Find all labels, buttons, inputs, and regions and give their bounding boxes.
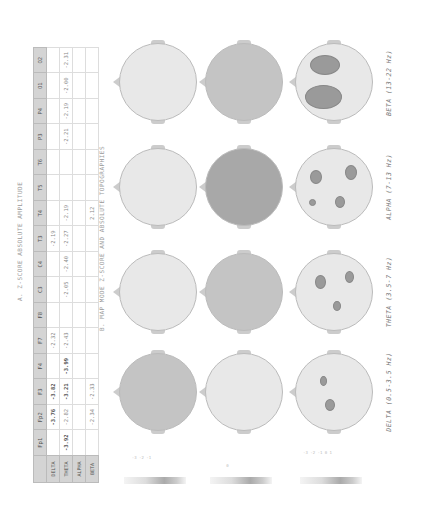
table-cell bbox=[86, 99, 99, 125]
activation-region bbox=[333, 301, 341, 311]
activation-region bbox=[335, 196, 345, 208]
table-cell bbox=[86, 150, 99, 176]
table-cell bbox=[60, 175, 73, 201]
table-cell: -2.34 bbox=[86, 405, 99, 431]
scalp-disc bbox=[119, 148, 197, 226]
alpha-z-score-map bbox=[119, 148, 197, 226]
col-header: Fp2 bbox=[34, 405, 47, 431]
col-header: T3 bbox=[34, 226, 47, 252]
table-cell bbox=[73, 226, 86, 252]
row-label: ALPHA bbox=[73, 456, 86, 483]
activation-region bbox=[305, 85, 342, 109]
colorbar bbox=[210, 477, 272, 484]
table-row: THETA-3.92-2.82-3.21-3.99-2.43-2.05-2.40… bbox=[60, 48, 73, 483]
table-cell bbox=[47, 430, 60, 456]
table-cell: -2.19 bbox=[60, 201, 73, 227]
col-header: T6 bbox=[34, 150, 47, 176]
beta-absolute-map bbox=[205, 43, 283, 121]
band-label-theta: THETA (3.5-7 Hz) bbox=[385, 247, 393, 337]
table-cell bbox=[47, 277, 60, 303]
delta-absolute-map bbox=[205, 353, 283, 431]
table-cell bbox=[73, 252, 86, 278]
table-cell bbox=[73, 175, 86, 201]
table-cell: 2.12 bbox=[86, 201, 99, 227]
activation-region bbox=[345, 271, 354, 283]
col-header: F3 bbox=[34, 379, 47, 405]
theta-topography-map bbox=[295, 253, 373, 331]
table-cell bbox=[73, 303, 86, 329]
activation-region bbox=[325, 399, 335, 411]
activation-region bbox=[310, 170, 322, 184]
activation-region bbox=[320, 376, 327, 386]
table-cell: -3.21 bbox=[60, 379, 73, 405]
colorbar bbox=[300, 477, 362, 484]
table-row: DELTA-3.76-3.82-2.32-2.19 bbox=[47, 48, 60, 483]
table-cell: -2.05 bbox=[60, 277, 73, 303]
col-header: C3 bbox=[34, 277, 47, 303]
eeg-report-page: A. Z-SCORE ABSOLUTE AMPLITUDE Fp1 Fp2 F3… bbox=[0, 0, 421, 511]
table-cell bbox=[86, 430, 99, 456]
table-cell: -2.19 bbox=[47, 226, 60, 252]
table-cell bbox=[86, 48, 99, 74]
colorbar-ticks: 0 bbox=[226, 463, 228, 468]
table-cell bbox=[86, 175, 99, 201]
scalp-disc bbox=[119, 253, 197, 331]
table-cell bbox=[73, 328, 86, 354]
table-cell bbox=[47, 99, 60, 125]
scalp-disc bbox=[295, 148, 373, 226]
band-label-alpha: ALPHA (7-13 Hz) bbox=[385, 142, 393, 232]
table-cell bbox=[86, 354, 99, 380]
table-cell: -2.32 bbox=[47, 328, 60, 354]
col-header: C4 bbox=[34, 252, 47, 278]
alpha-absolute-map bbox=[205, 148, 283, 226]
col-header: T4 bbox=[34, 201, 47, 227]
table-cell: -2.82 bbox=[60, 405, 73, 431]
scalp-disc bbox=[295, 253, 373, 331]
col-header: F4 bbox=[34, 354, 47, 380]
activation-region bbox=[315, 275, 326, 289]
table-cell bbox=[86, 277, 99, 303]
colorbar-ticks: -3 -2 -1 bbox=[132, 455, 151, 460]
table-cell: -3.82 bbox=[47, 379, 60, 405]
table-cell bbox=[60, 150, 73, 176]
scalp-disc bbox=[205, 353, 283, 431]
table-cell bbox=[47, 252, 60, 278]
table-caption: A. Z-SCORE ABSOLUTE AMPLITUDE bbox=[16, 182, 23, 301]
beta-z-score-map bbox=[119, 43, 197, 121]
alpha-topography-map bbox=[295, 148, 373, 226]
scalp-disc bbox=[205, 148, 283, 226]
row-label: THETA bbox=[60, 456, 73, 483]
theta-absolute-map bbox=[205, 253, 283, 331]
maps-caption: B. MAP MODE Z-SCORE AND ABSOLUTE TOPOGRA… bbox=[98, 146, 105, 331]
band-label-beta: BETA (13-22 Hz) bbox=[385, 38, 393, 128]
table-cell: -2.27 bbox=[60, 226, 73, 252]
scalp-disc bbox=[119, 353, 197, 431]
table-cell bbox=[73, 379, 86, 405]
scalp-disc bbox=[295, 43, 373, 121]
table-cell: -2.43 bbox=[60, 328, 73, 354]
table-cell bbox=[73, 430, 86, 456]
col-header: P4 bbox=[34, 99, 47, 125]
scalp-disc bbox=[119, 43, 197, 121]
table-cell bbox=[47, 303, 60, 329]
row-label: BETA bbox=[86, 456, 99, 483]
col-header: F8 bbox=[34, 303, 47, 329]
table-cell bbox=[73, 201, 86, 227]
table-cell: -2.40 bbox=[60, 252, 73, 278]
table-cell bbox=[73, 73, 86, 99]
table-cell bbox=[86, 303, 99, 329]
table-cell: -2.19 bbox=[60, 99, 73, 125]
col-header: T5 bbox=[34, 175, 47, 201]
table-cell bbox=[73, 124, 86, 150]
activation-region bbox=[345, 165, 357, 180]
table-cell: -3.92 bbox=[60, 430, 73, 456]
table-row: ALPHA bbox=[73, 48, 86, 483]
col-header: F7 bbox=[34, 328, 47, 354]
col-header: O2 bbox=[34, 48, 47, 74]
table-cell: -2.31 bbox=[60, 48, 73, 74]
col-header: Fp1 bbox=[34, 430, 47, 456]
table-cell: -2.00 bbox=[60, 73, 73, 99]
band-label-delta: DELTA (0.5-3.5 Hz) bbox=[385, 347, 393, 437]
table-cell bbox=[73, 405, 86, 431]
table-cell: -3.76 bbox=[47, 405, 60, 431]
